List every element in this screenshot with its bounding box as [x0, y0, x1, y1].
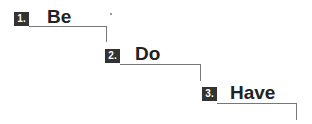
connector-horizontal: [29, 26, 107, 27]
connector-vertical: [296, 103, 297, 120]
connector-vertical: [106, 26, 107, 42]
connector-horizontal: [120, 64, 201, 65]
stray-dot: [110, 13, 112, 15]
step-number-badge: 1.: [14, 12, 29, 26]
step-number-badge: 3.: [202, 87, 217, 101]
step-label: Be: [47, 7, 71, 27]
step-label: Do: [135, 44, 160, 64]
step-number-badge: 2.: [105, 49, 120, 63]
connector-horizontal: [217, 103, 297, 104]
connector-vertical: [200, 64, 201, 81]
step-label: Have: [230, 83, 275, 103]
